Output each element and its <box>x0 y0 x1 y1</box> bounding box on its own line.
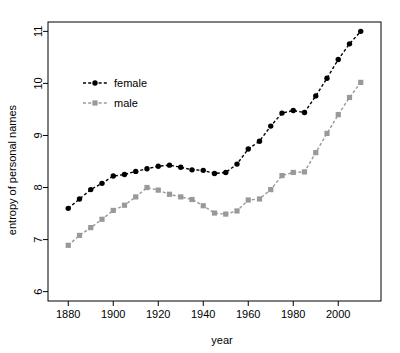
data-point-male <box>358 80 363 85</box>
data-point-female <box>358 29 363 34</box>
data-point-male <box>122 203 127 208</box>
x-axis-title: year <box>211 334 233 346</box>
y-tick-label: 8 <box>32 184 44 190</box>
x-tick-label: 1920 <box>146 308 170 320</box>
legend-marker-male <box>92 100 97 105</box>
legend-label-male: male <box>114 97 138 109</box>
data-point-male <box>156 188 161 193</box>
data-point-male <box>111 208 116 213</box>
x-tick-label: 1980 <box>281 308 305 320</box>
data-point-male <box>144 185 149 190</box>
data-point-female <box>144 166 149 171</box>
chart-container: 67891011 1880190019201940196019802000 fe… <box>0 0 400 353</box>
data-point-male <box>189 197 194 202</box>
data-point-male <box>133 194 138 199</box>
data-point-female <box>201 168 206 173</box>
data-point-female <box>336 57 341 62</box>
x-tick-label: 1880 <box>56 308 80 320</box>
data-point-male <box>234 208 239 213</box>
data-point-female <box>178 165 183 170</box>
y-tick-label: 10 <box>32 77 44 89</box>
data-point-female <box>122 172 127 177</box>
data-point-female <box>133 169 138 174</box>
y-axis-title: entropy of personal names <box>6 104 18 235</box>
data-point-male <box>201 203 206 208</box>
data-point-male <box>99 217 104 222</box>
data-point-female <box>88 187 93 192</box>
data-point-male <box>178 194 183 199</box>
data-point-male <box>223 211 228 216</box>
y-tick-label: 6 <box>32 289 44 295</box>
data-point-male <box>302 169 307 174</box>
data-point-female <box>257 138 262 143</box>
data-point-female <box>99 181 104 186</box>
data-point-female <box>279 110 284 115</box>
data-point-female <box>268 123 273 128</box>
data-point-female <box>223 170 228 175</box>
data-point-female <box>291 108 296 113</box>
data-point-female <box>246 146 251 151</box>
data-point-female <box>111 173 116 178</box>
x-tick-label: 1960 <box>236 308 260 320</box>
data-point-male <box>88 225 93 230</box>
x-tick-label: 1940 <box>191 308 215 320</box>
x-tick-label: 1900 <box>101 308 125 320</box>
data-point-male <box>167 192 172 197</box>
y-tick-label: 11 <box>32 26 44 37</box>
y-tick-label: 7 <box>32 237 44 243</box>
legend-label-female: female <box>114 77 147 89</box>
data-point-female <box>156 163 161 168</box>
legend-marker-female <box>92 80 97 85</box>
data-point-female <box>313 93 318 98</box>
x-tick-label: 2000 <box>326 308 350 320</box>
data-point-male <box>279 173 284 178</box>
y-tick-label: 9 <box>32 132 44 138</box>
data-point-female <box>77 196 82 201</box>
data-point-male <box>77 233 82 238</box>
data-point-male <box>246 197 251 202</box>
chart-background <box>0 0 400 353</box>
data-point-female <box>324 76 329 81</box>
data-point-male <box>336 112 341 117</box>
data-point-female <box>212 171 217 176</box>
data-point-male <box>313 150 318 155</box>
data-point-female <box>302 110 307 115</box>
data-point-male <box>212 210 217 215</box>
data-point-male <box>347 95 352 100</box>
data-point-male <box>324 131 329 136</box>
data-point-female <box>234 161 239 166</box>
data-point-male <box>291 170 296 175</box>
data-point-female <box>189 167 194 172</box>
data-point-male <box>257 196 262 201</box>
data-point-male <box>268 187 273 192</box>
data-point-female <box>167 162 172 167</box>
data-point-female <box>347 41 352 46</box>
data-point-male <box>66 243 71 248</box>
data-point-female <box>66 206 71 211</box>
entropy-line-chart: 67891011 1880190019201940196019802000 fe… <box>0 0 400 353</box>
